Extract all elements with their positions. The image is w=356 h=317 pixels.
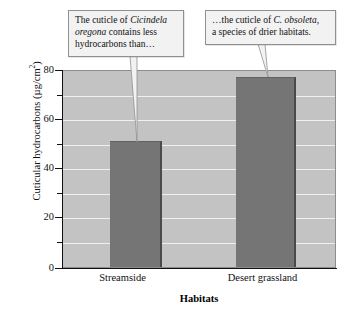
callout-left-species-2: oregona [75,27,106,37]
y-axis-title-superscript: 2 [28,65,37,69]
x-tick-label-streamside: Streamside [60,272,185,283]
x-axis-line [62,268,337,269]
x-tick-label-desert-grassland: Desert grassland [190,272,335,283]
callout-left-line1-normal: The cuticle of [75,15,130,25]
y-tick-20 [55,217,62,218]
y-tick-10 [57,242,62,243]
callout-left-line3: hydrocarbons than… [75,39,155,49]
y-axis-title-end: ) [31,61,42,65]
y-tick-label-80: 80 [44,65,55,75]
figure-root: 80 60 40 20 0 Cuticular hydrocarbons (µg… [0,0,356,317]
y-tick-80 [55,70,62,71]
y-tick-label-40: 40 [44,163,55,173]
callout-right-species: C. obsoleta, [273,15,319,25]
callout-right: …the cuticle of C. obsoleta,a species of… [205,10,336,45]
x-axis-title: Habitats [62,293,336,304]
y-tick-70 [57,95,62,96]
callout-left-line2-normal: contains less [106,27,157,37]
y-axis-title: Cuticular hydrocarbons (µg/cm2) [28,31,42,231]
plot-area [62,70,336,268]
callout-left: The cuticle of Cicindelaoregona contains… [68,10,184,57]
y-tick-30 [57,193,62,194]
y-tick-0 [55,268,62,269]
y-tick-label-0: 0 [49,263,54,273]
bar-streamside [110,141,162,267]
y-tick-label-20: 20 [44,212,55,222]
callout-left-species-1: Cicindela [130,15,167,25]
y-axis-title-main: Cuticular hydrocarbons (µg/cm [31,68,42,200]
y-tick-40 [55,168,62,169]
callout-right-line2: a species of drier habitats. [212,27,311,37]
callout-right-line1-normal: …the cuticle of [212,15,273,25]
bar-desert-grassland [236,77,296,267]
y-tick-label-60: 60 [44,114,55,124]
y-tick-50 [57,144,62,145]
y-axis-line [62,70,63,269]
y-tick-60 [55,119,62,120]
